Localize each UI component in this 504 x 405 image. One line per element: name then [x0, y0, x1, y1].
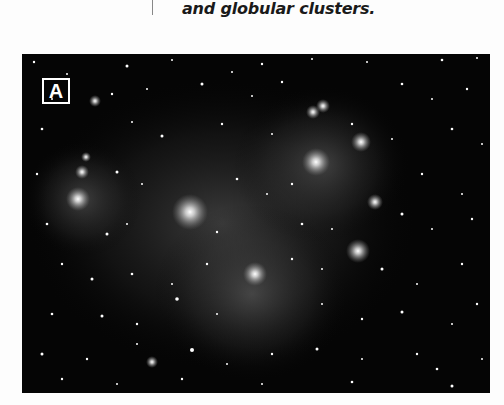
panel-label: A: [42, 78, 70, 104]
caption-text: and globular clusters.: [182, 0, 375, 18]
star-field: [22, 54, 490, 393]
margin-rule: [152, 0, 153, 15]
star-cluster-photo: A: [22, 54, 490, 393]
